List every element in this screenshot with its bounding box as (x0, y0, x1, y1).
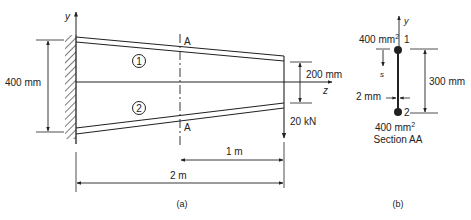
figure-a: y z A A 1 2 400 mm 200 mm 20 kN (5, 11, 342, 209)
figure-b: y 400 mm2 1 2 400 mm2 s 2 mm 300 mm Sect… (356, 16, 465, 209)
section-label-top: A (184, 36, 191, 47)
web-thickness-label: 2 mm (356, 91, 381, 102)
section-title: Section AA (374, 134, 423, 145)
tip-depth-label: 200 mm (306, 69, 342, 80)
boom-2-area: 400 mm2 (375, 121, 415, 133)
caption-a: (a) (177, 199, 188, 209)
z-axis-label: z (322, 85, 328, 96)
boom-1-number: 1 (404, 34, 410, 45)
dim-2m-label: 2 m (170, 170, 187, 181)
y-axis-label-b: y (403, 16, 409, 26)
root-depth-label: 400 mm (5, 77, 41, 88)
load-label: 20 kN (290, 116, 316, 127)
flange-2-number: 2 (136, 103, 142, 114)
diagram: y z A A 1 2 400 mm 200 mm 20 kN (0, 0, 471, 220)
s-label: s (380, 70, 384, 79)
boom-1-area: 400 mm2 (359, 33, 399, 45)
caption-b: (b) (393, 199, 404, 209)
section-label-bottom: A (184, 122, 191, 133)
boom-2 (394, 108, 402, 116)
boom-1 (394, 46, 402, 54)
fixed-wall-hatch (65, 35, 76, 139)
y-axis-label-a: y (64, 11, 71, 22)
dim-1m-label: 1 m (226, 146, 243, 157)
flange-1-number: 1 (136, 56, 142, 67)
depth-label: 300 mm (429, 76, 465, 87)
boom-2-number: 2 (404, 107, 410, 118)
